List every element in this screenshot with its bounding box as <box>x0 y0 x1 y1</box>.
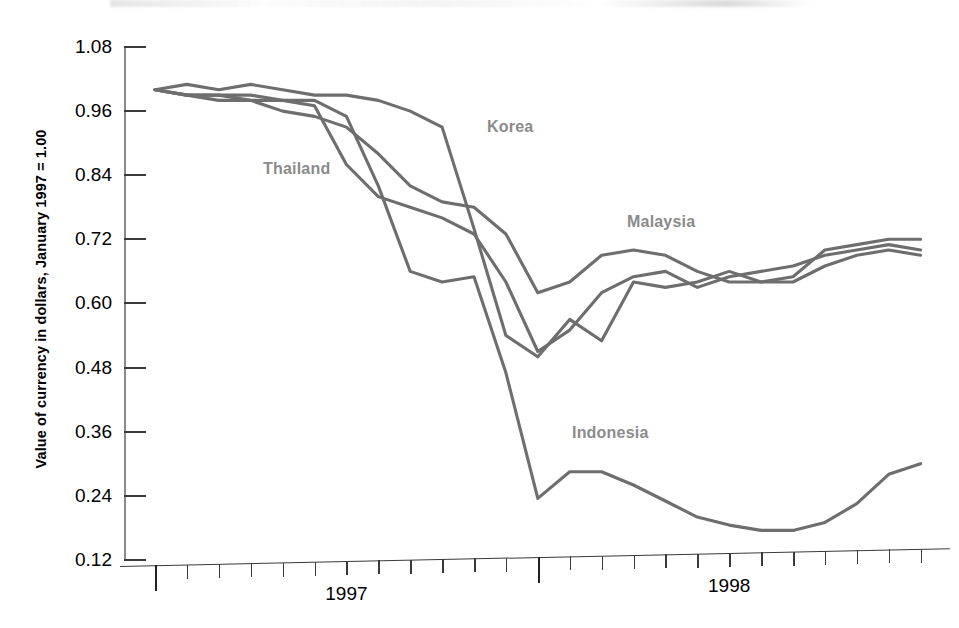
currency-value-line-chart: Value of currency in dollars, January 19… <box>0 0 959 628</box>
series-line-indonesia <box>155 90 921 531</box>
series-line-korea <box>155 84 921 356</box>
series-label-indonesia: Indonesia <box>572 424 648 442</box>
series-label-thailand: Thailand <box>263 160 330 178</box>
plot-area <box>0 0 959 628</box>
series-label-malaysia: Malaysia <box>627 213 695 231</box>
series-line-thailand <box>155 90 921 352</box>
series-label-korea: Korea <box>487 118 533 136</box>
